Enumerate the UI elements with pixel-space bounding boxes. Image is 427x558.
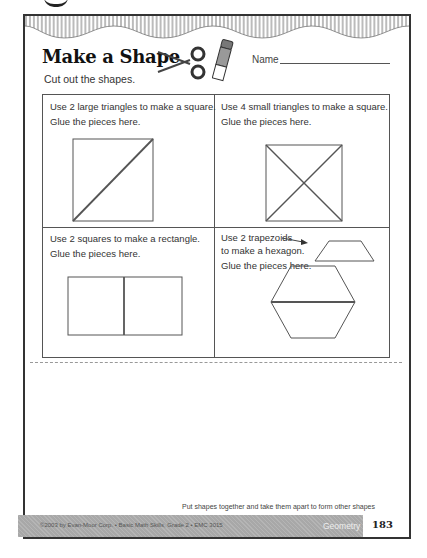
arrow-icon bbox=[281, 235, 309, 245]
cell-2-instructions: Use 4 small triangles to make a square. … bbox=[221, 99, 388, 129]
footer-caption: Put shapes together and take them apart … bbox=[182, 503, 375, 510]
glue-stick-icon bbox=[212, 38, 234, 84]
cell-4-hexagon-diagram bbox=[269, 265, 357, 339]
cell-4-line-1b: to make a hexagon. bbox=[221, 244, 311, 257]
name-label: Name bbox=[252, 54, 279, 65]
cell-3-instructions: Use 2 squares to make a rectangle. Glue … bbox=[50, 231, 200, 261]
subject-label: Geometry bbox=[323, 521, 360, 531]
cell-3-rectangle-diagram bbox=[67, 276, 183, 336]
cut-line bbox=[30, 362, 402, 363]
cell-1-square-diagram bbox=[72, 138, 154, 222]
trapezoid-diagram bbox=[314, 240, 376, 262]
cell-3-line-2: Glue the pieces here. bbox=[50, 246, 200, 261]
scissors-icon bbox=[156, 44, 212, 80]
activity-grid: Use 2 large triangles to make a square. … bbox=[42, 94, 390, 358]
copyright-text: ©2003 by Evan-Moor Corp. • Basic Math Sk… bbox=[40, 522, 223, 528]
cell-1-line-1: Use 2 large triangles to make a square. bbox=[50, 99, 216, 114]
cropped-letter-fragment bbox=[44, 0, 68, 7]
cell-1-line-2: Glue the pieces here. bbox=[50, 114, 216, 129]
name-field[interactable] bbox=[280, 63, 390, 64]
grid-divider-horizontal bbox=[43, 227, 389, 228]
cell-3-line-1: Use 2 squares to make a rectangle. bbox=[50, 231, 200, 246]
grid-divider-vertical bbox=[214, 95, 215, 357]
scalloped-border-decoration bbox=[25, 16, 409, 40]
page-number: 183 bbox=[372, 519, 393, 530]
cell-2-line-2: Glue the pieces here. bbox=[221, 114, 388, 129]
cell-1-instructions: Use 2 large triangles to make a square. … bbox=[50, 99, 216, 129]
cell-2-line-1: Use 4 small triangles to make a square. bbox=[221, 99, 388, 114]
cell-2-square-diagram bbox=[265, 144, 343, 222]
instructions: Cut out the shapes. bbox=[44, 73, 135, 85]
